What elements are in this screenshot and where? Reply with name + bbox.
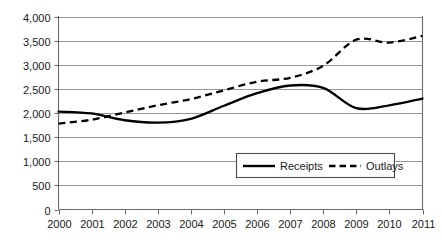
x-tick-label-2006: 2006 (245, 218, 269, 230)
y-tick-label-3000: 3,000 (23, 60, 51, 72)
y-tick-label-1000: 1,000 (23, 156, 51, 168)
chart-container: 05001,0001,5002,0002,5003,0003,5004,000 … (0, 0, 442, 246)
y-tick-label-500: 500 (32, 180, 50, 192)
x-tick-label-2011: 2011 (412, 218, 436, 230)
x-tick-label-2010: 2010 (377, 218, 401, 230)
line-chart: 05001,0001,5002,0002,5003,0003,5004,000 … (0, 0, 442, 246)
y-tick-label-1500: 1,500 (23, 132, 51, 144)
y-tick-label-4000: 4,000 (23, 12, 51, 24)
legend-label-receipts: Receipts (280, 160, 323, 172)
chart-legend: Receipts Outlays (237, 154, 404, 178)
y-tick-label-0: 0 (44, 205, 50, 217)
x-tick-label-2000: 2000 (47, 218, 71, 230)
x-tick-label-2007: 2007 (278, 218, 302, 230)
x-tick-label-2009: 2009 (344, 218, 368, 230)
x-tick-label-2005: 2005 (212, 218, 236, 230)
x-tick-label-2003: 2003 (146, 218, 170, 230)
x-tick-label-2008: 2008 (311, 218, 335, 230)
x-tick-label-2004: 2004 (179, 218, 203, 230)
legend-label-outlays: Outlays (366, 160, 404, 172)
x-tick-label-2002: 2002 (113, 218, 137, 230)
x-tick-label-2001: 2001 (80, 218, 104, 230)
y-tick-label-2000: 2,000 (23, 108, 51, 120)
y-tick-label-3500: 3,500 (23, 36, 51, 48)
y-tick-label-2500: 2,500 (23, 84, 51, 96)
